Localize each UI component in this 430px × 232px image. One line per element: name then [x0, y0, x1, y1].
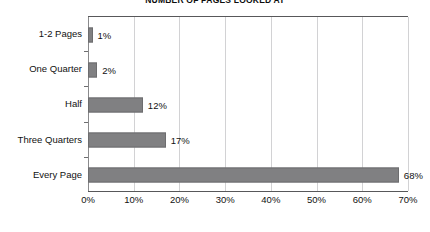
- category-label-row: Half: [0, 86, 88, 121]
- bar-row: 1%: [88, 17, 408, 52]
- bar-chart: NUMBER OF PAGES LOOKED AT 1-2 PagesOne Q…: [0, 0, 430, 232]
- category-label: Every Page: [33, 169, 82, 180]
- category-label: Half: [65, 98, 82, 109]
- bar-value-label: 12%: [148, 99, 167, 110]
- bar-row: 17%: [88, 123, 408, 158]
- bar-value-label: 1%: [98, 29, 112, 40]
- x-axis-tick-label: 40%: [261, 194, 280, 205]
- plot-area: 1%2%12%17%68%: [88, 16, 408, 192]
- bar[interactable]: [88, 168, 399, 183]
- category-label-row: Three Quarters: [0, 122, 88, 157]
- gridline-70pct: [408, 17, 409, 191]
- bar[interactable]: [88, 62, 97, 77]
- bar[interactable]: [88, 27, 93, 42]
- category-label-row: 1-2 Pages: [0, 16, 88, 51]
- bar-row: 2%: [88, 52, 408, 87]
- x-axis-tick-label: 20%: [170, 194, 189, 205]
- bar[interactable]: [88, 97, 143, 112]
- bar-value-label: 17%: [171, 135, 190, 146]
- bar-value-label: 68%: [404, 170, 423, 181]
- x-axis-tick-label: 30%: [216, 194, 235, 205]
- x-axis-tick-label: 70%: [398, 194, 417, 205]
- bar-row: 68%: [88, 158, 408, 193]
- x-axis-tick-labels: 0%10%20%30%40%50%60%70%: [0, 194, 430, 210]
- category-label-row: One Quarter: [0, 51, 88, 86]
- x-axis-tick-label: 50%: [307, 194, 326, 205]
- bar[interactable]: [88, 133, 166, 148]
- category-label-row: Every Page: [0, 157, 88, 192]
- x-axis-tick-label: 60%: [353, 194, 372, 205]
- x-axis-tick-label: 0%: [81, 194, 95, 205]
- category-label: One Quarter: [29, 63, 82, 74]
- category-label: 1-2 Pages: [39, 28, 82, 39]
- category-label: Three Quarters: [18, 134, 82, 145]
- bar-value-label: 2%: [102, 64, 116, 75]
- chart-title: NUMBER OF PAGES LOOKED AT: [0, 0, 430, 5]
- y-axis-category-labels: 1-2 PagesOne QuarterHalfThree QuartersEv…: [0, 16, 88, 192]
- bar-row: 12%: [88, 87, 408, 122]
- x-axis-tick-label: 10%: [124, 194, 143, 205]
